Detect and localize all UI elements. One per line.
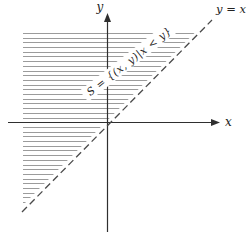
line-equation-label: y = x xyxy=(215,2,246,16)
x-axis-label: x xyxy=(225,115,232,129)
line-y-equals-x xyxy=(22,20,212,212)
y-axis-arrow-icon xyxy=(104,13,111,22)
y-axis-label: y xyxy=(96,0,104,14)
axes-and-line-layer: y x y = x xyxy=(0,0,249,240)
coordinate-plane-figure: y x y = x S = {(x, y)|x < y} xyxy=(0,0,249,240)
x-axis-arrow-icon xyxy=(211,119,220,126)
